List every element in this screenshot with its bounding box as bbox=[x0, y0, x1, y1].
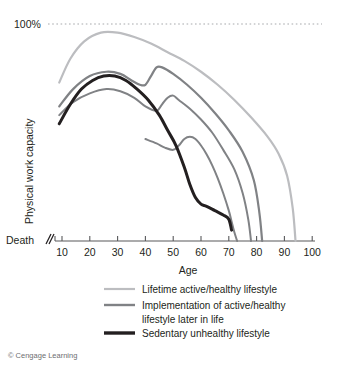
x-tick-60: 60 bbox=[195, 246, 207, 258]
chart-svg: 100% Death Physical work capacity bbox=[0, 0, 338, 372]
credit-line: © Cengage Learning bbox=[8, 351, 77, 360]
series-layer bbox=[59, 32, 295, 241]
x-axis-ticks bbox=[55, 236, 312, 241]
y-axis-bottom-label: Death bbox=[6, 234, 34, 246]
x-tick-50: 50 bbox=[167, 246, 179, 258]
x-tick-20: 20 bbox=[84, 246, 96, 258]
series-line-0 bbox=[59, 32, 295, 241]
y-axis-title: Physical work capacity bbox=[23, 118, 35, 224]
x-tick-80: 80 bbox=[251, 246, 263, 258]
x-tick-10: 10 bbox=[56, 246, 68, 258]
x-axis-title: Age bbox=[179, 264, 198, 276]
x-tick-100: 100 bbox=[303, 246, 321, 258]
x-tick-90: 90 bbox=[279, 246, 291, 258]
legend-label-implementation-line1: Implementation of active/healthy bbox=[142, 300, 285, 311]
x-axis-tick-labels: 10 20 30 40 50 60 70 80 90 100 bbox=[56, 246, 321, 258]
x-tick-70: 70 bbox=[223, 246, 235, 258]
x-tick-30: 30 bbox=[112, 246, 124, 258]
series-line-2 bbox=[59, 89, 251, 241]
y-axis-top-label: 100% bbox=[14, 18, 41, 30]
legend: Lifetime active/healthy lifestyle Implem… bbox=[104, 284, 285, 340]
x-tick-40: 40 bbox=[140, 246, 152, 258]
legend-label-lifetime-active: Lifetime active/healthy lifestyle bbox=[142, 284, 278, 295]
legend-label-sedentary: Sedentary unhealthy lifestyle bbox=[142, 328, 270, 339]
legend-label-implementation-line2: lifestyle later in life bbox=[142, 314, 224, 325]
figure-container: 100% Death Physical work capacity bbox=[0, 0, 338, 372]
axis-break-icon bbox=[46, 234, 54, 244]
